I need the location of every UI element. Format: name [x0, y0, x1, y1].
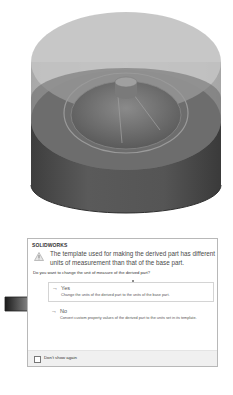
arrow-right-icon: →	[52, 285, 58, 291]
model-viewport	[0, 0, 233, 215]
option-no-description: Convert custom property values of the de…	[60, 316, 210, 321]
warning-icon	[34, 252, 44, 261]
option-yes-description: Change the units of the derived part to …	[61, 293, 211, 298]
dialog-message: The template used for making the derived…	[50, 250, 216, 267]
dont-show-again-label[interactable]: Don't show again	[44, 355, 77, 360]
option-no-button[interactable]: → No Convert custom property values of t…	[48, 306, 214, 330]
option-yes-label: Yes	[61, 285, 70, 291]
dialog-footer: Don't show again	[28, 350, 217, 366]
option-no-label: No	[60, 308, 67, 314]
option-yes-button[interactable]: → Yes Change the units of the derived pa…	[48, 282, 214, 302]
dialog-title: SOLIDWORKS	[32, 242, 67, 248]
dialog-question: Do you want to change the unit of measur…	[33, 270, 150, 275]
arrow-right-icon: →	[51, 308, 57, 314]
dont-show-again-checkbox[interactable]	[34, 356, 41, 363]
solidworks-dialog: SOLIDWORKS The template used for making …	[27, 238, 218, 367]
